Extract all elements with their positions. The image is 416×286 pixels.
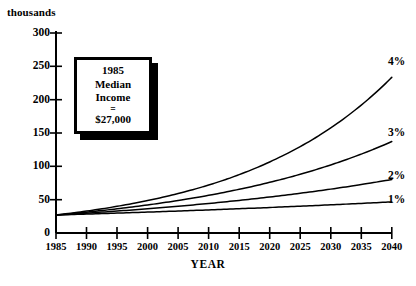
- y-tick-label-0: 0: [20, 226, 50, 238]
- callout-line-year: 1985: [102, 64, 124, 77]
- median-income-callout: 1985 Median Income = $27,000: [74, 57, 152, 134]
- series-label-3-percent: 3%: [388, 126, 405, 138]
- series-label-2-percent: 2%: [388, 169, 405, 181]
- callout-line-amount: $27,000: [95, 113, 131, 126]
- callout-line-income: Income: [96, 91, 131, 104]
- callout-line-median: Median: [95, 78, 131, 91]
- x-axis-title: YEAR: [0, 258, 416, 270]
- y-tick-label-100: 100: [20, 159, 50, 171]
- x-tick-label-2040: 2040: [372, 241, 412, 252]
- y-tick-label-50: 50: [20, 193, 50, 205]
- y-tick-label-300: 300: [20, 26, 50, 38]
- series-label-4-percent: 4%: [388, 55, 405, 67]
- callout-line-equals: =: [110, 105, 115, 114]
- y-tick-label-200: 200: [20, 93, 50, 105]
- y-axis-unit-label: thousands: [7, 6, 56, 18]
- income-projection-chart: thousands 300 250 200 150 100 50 0 1985 …: [0, 0, 416, 286]
- y-tick-label-150: 150: [20, 126, 50, 138]
- y-tick-label-250: 250: [20, 59, 50, 71]
- series-label-1-percent: 1%: [388, 193, 405, 205]
